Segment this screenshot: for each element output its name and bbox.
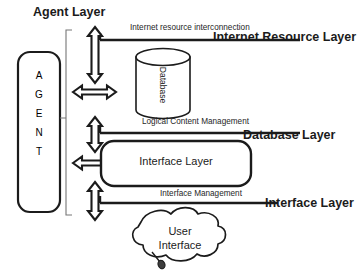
interface-layer-right-label: Interface Layer [265,196,354,210]
user-interface-line1: User [139,224,221,238]
agent-layer-label: Agent Layer [33,5,105,19]
interface-layer-box-label: Interface Layer [131,155,221,167]
diagram-canvas: Agent Layer Internet Resource Layer Data… [0,0,357,278]
agent-layer-bracket [60,30,72,215]
database-layer-label: Database Layer [243,128,335,142]
arrow-agent-horizontal-top [73,86,116,99]
database-label: Database [158,63,168,107]
agent-letter-g: G [18,89,60,108]
user-interface-line2: Interface [139,238,221,252]
arrow-agent-database [88,117,102,152]
internet-resource-layer-label: Internet Resource Layer [213,30,356,44]
interface-management-label: Interface Management [160,189,242,198]
agent-letter-n: N [18,127,60,146]
logical-content-management-label: Logical Content Management [142,117,249,126]
agent-letter-t: T [18,146,60,165]
user-interface-label: User Interface [139,224,221,252]
arrow-agent-internet-resource [88,27,102,83]
agent-letter-a: A [18,70,60,89]
internet-resource-interconnection-label: Internet resource interconnection [130,23,250,32]
agent-letter-e: E [18,108,60,127]
agent-box-label: A G E N T [18,70,60,165]
